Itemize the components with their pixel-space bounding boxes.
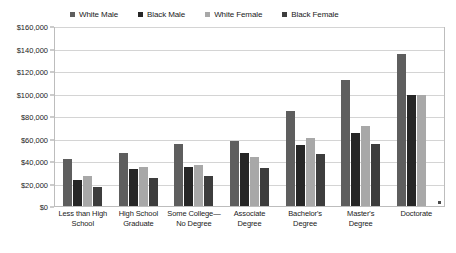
- legend-item-label: White Male: [79, 10, 118, 19]
- y-axis-tick-label: $0: [40, 203, 48, 212]
- x-axis-label-line: Graduate: [112, 219, 166, 229]
- bar: [204, 176, 213, 206]
- x-axis-label-line: Associate: [223, 209, 277, 219]
- bar: [119, 153, 128, 206]
- y-axis-tick-label: $60,000: [21, 135, 48, 144]
- legend-item[interactable]: White Male: [70, 10, 118, 19]
- bar: [240, 153, 249, 206]
- legend-swatch-icon: [282, 12, 287, 17]
- x-axis-label-line: Degree: [223, 219, 277, 229]
- bar: [83, 176, 92, 206]
- y-axis-tick-label: $140,000: [17, 45, 48, 54]
- bar-group: [55, 28, 111, 206]
- x-axis-label-line: High School: [112, 209, 166, 219]
- x-axis-label-line: Some College—: [167, 209, 221, 219]
- legend-swatch-icon: [138, 12, 143, 17]
- x-axis-label-line: Degree: [334, 219, 388, 229]
- bar: [129, 169, 138, 206]
- chart-legend: White MaleBlack MaleWhite FemaleBlack Fe…: [70, 7, 400, 21]
- x-axis-category-label: Bachelor'sDegree: [277, 209, 333, 245]
- x-axis-category-label: Some College—No Degree: [166, 209, 222, 245]
- bar: [194, 165, 203, 206]
- legend-item-label: Black Male: [147, 10, 185, 19]
- bar: [417, 95, 426, 206]
- bar: [407, 95, 416, 206]
- bar-group: [111, 28, 167, 206]
- x-axis-category-label: AssociateDegree: [222, 209, 278, 245]
- bar: [341, 80, 350, 206]
- x-axis-label-line: No Degree: [167, 219, 221, 229]
- legend-swatch-icon: [70, 12, 75, 17]
- x-axis-category-label: Doctorate: [388, 209, 444, 245]
- legend-item[interactable]: Black Male: [138, 10, 185, 19]
- legend-item[interactable]: White Female: [205, 10, 262, 19]
- bar: [316, 154, 325, 206]
- bar: [306, 138, 315, 206]
- bar-group: [222, 28, 278, 206]
- bar: [63, 159, 72, 206]
- x-axis-label-line: Degree: [278, 219, 332, 229]
- bar: [371, 144, 380, 206]
- x-axis-category-label: Less than HighSchool: [55, 209, 111, 245]
- x-axis-label-line: Bachelor's: [278, 209, 332, 219]
- legend-item[interactable]: Black Female: [282, 10, 338, 19]
- bar: [351, 133, 360, 206]
- bar-groups: [55, 28, 444, 206]
- x-axis-label-line: Master's: [334, 209, 388, 219]
- legend-item-label: Black Female: [291, 10, 338, 19]
- bar-group: [166, 28, 222, 206]
- bar: [174, 144, 183, 206]
- y-axis-tick-label: $20,000: [21, 180, 48, 189]
- y-axis: $0$20,000$40,000$60,000$80,000$100,000$1…: [0, 27, 52, 207]
- bar: [250, 157, 259, 206]
- bar: [73, 180, 82, 206]
- bar: [230, 141, 239, 206]
- bar: [296, 145, 305, 206]
- legend-swatch-icon: [205, 12, 210, 17]
- x-axis-category-label: Master'sDegree: [333, 209, 389, 245]
- bar: [93, 187, 102, 206]
- bar-group: [277, 28, 333, 206]
- x-axis-label-line: Doctorate: [389, 209, 443, 219]
- bar-chart: White MaleBlack MaleWhite FemaleBlack Fe…: [0, 0, 456, 253]
- bar-group: [333, 28, 389, 206]
- y-axis-tick-label: $40,000: [21, 158, 48, 167]
- bar: [184, 167, 193, 206]
- y-axis-tick-label: $100,000: [17, 90, 48, 99]
- x-axis-category-label: High SchoolGraduate: [111, 209, 167, 245]
- bar: [149, 178, 158, 206]
- y-axis-tick-label: $160,000: [17, 23, 48, 32]
- x-axis-label-line: Less than High: [56, 209, 110, 219]
- y-axis-tick-label: $80,000: [21, 113, 48, 122]
- legend-item-label: White Female: [214, 10, 262, 19]
- x-axis-label-line: School: [56, 219, 110, 229]
- x-axis: Less than HighSchoolHigh SchoolGraduateS…: [55, 209, 444, 245]
- bar: [286, 111, 295, 206]
- bar: [397, 54, 406, 206]
- bar-group: [388, 28, 444, 206]
- y-axis-tick-label: $120,000: [17, 68, 48, 77]
- bar: [139, 167, 148, 206]
- bar: [361, 126, 370, 206]
- bar: [260, 168, 269, 206]
